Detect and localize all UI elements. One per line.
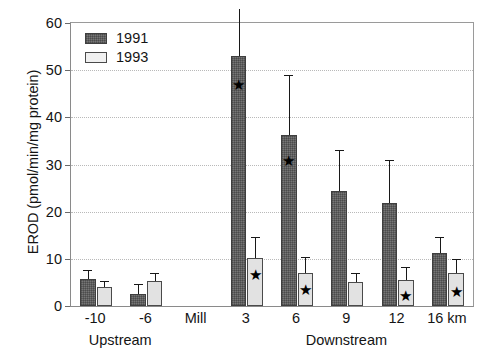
legend-swatch-1991-icon	[85, 33, 107, 44]
error-bar-cap	[335, 150, 344, 151]
y-axis-tick-label: 20	[22, 205, 62, 220]
error-bar-1991-16-km	[440, 237, 441, 253]
y-axis-tick-label: 30	[22, 158, 62, 173]
y-axis-tick	[65, 212, 70, 213]
bar-1993--10	[97, 287, 113, 306]
x-axis-tick-label: 3	[242, 311, 250, 326]
error-bar-1993-9	[356, 273, 357, 282]
gridline	[71, 70, 473, 71]
bar-1993-9	[348, 282, 364, 306]
y-axis-tick	[65, 306, 70, 307]
legend: 1991 1993	[85, 30, 177, 68]
bar-1991-9	[331, 191, 347, 306]
y-axis-tick	[65, 70, 70, 71]
error-bar-cap	[100, 281, 109, 282]
error-bar-1991-3	[239, 9, 240, 56]
significance-star: ★	[232, 77, 245, 92]
y-axis-tick-label: 0	[22, 299, 62, 314]
erod-bar-chart-figure: EROD (pmol/min/mg protein) 0102030405060…	[0, 0, 493, 360]
y-axis-tick-label: 50	[22, 63, 62, 78]
x-axis-group-label: Downstream	[306, 333, 387, 348]
x-axis-tick-label: 12	[389, 311, 405, 326]
legend-swatch-1993-icon	[85, 52, 107, 63]
y-axis-tick-label: 60	[22, 16, 62, 31]
error-bar-1993-6	[305, 257, 306, 273]
error-bar-cap	[284, 75, 293, 76]
error-bar-cap	[385, 160, 394, 161]
y-axis-tick-label: 40	[22, 110, 62, 125]
x-axis-tick-label: 9	[342, 311, 350, 326]
error-bar-1991-6	[289, 75, 290, 135]
error-bar-cap	[301, 257, 310, 258]
error-bar-1993-16-km	[456, 259, 457, 273]
y-axis-tick	[65, 165, 70, 166]
y-axis-tick	[65, 259, 70, 260]
y-axis-tick	[65, 117, 70, 118]
significance-star: ★	[450, 283, 463, 298]
bar-1991--10	[80, 279, 96, 306]
x-axis-group-label: Upstream	[89, 333, 152, 348]
y-axis-tick-label: 10	[22, 252, 62, 267]
bar-1991-12	[382, 203, 398, 306]
bar-1993--6	[147, 281, 163, 306]
error-bar-1991-9	[339, 150, 340, 191]
error-bar-cap	[452, 259, 461, 260]
error-bar-cap	[401, 267, 410, 268]
gridline	[71, 259, 473, 260]
error-bar-cap	[83, 270, 92, 271]
legend-label-1993: 1993	[116, 50, 148, 65]
error-bar-1993--6	[155, 273, 156, 281]
bar-1991-3	[231, 56, 247, 306]
error-bar-1991--10	[88, 270, 89, 279]
error-bar-cap	[251, 237, 260, 238]
x-axis-tick-label: -10	[85, 311, 106, 326]
error-bar-1991--6	[138, 284, 139, 294]
error-bar-1993-12	[406, 267, 407, 280]
error-bar-1991-12	[389, 160, 390, 203]
error-bar-1993-3	[255, 237, 256, 258]
legend-item-1991: 1991	[85, 30, 177, 47]
error-bar-cap	[351, 273, 360, 274]
x-axis-tick-label: 16 km	[427, 311, 467, 326]
legend-label-1991: 1991	[116, 31, 148, 46]
bar-1991--6	[130, 294, 146, 306]
error-bar-cap	[150, 273, 159, 274]
x-axis-tick-label: -6	[139, 311, 152, 326]
significance-star: ★	[299, 282, 312, 297]
x-axis-tick-label: Mill	[185, 311, 207, 326]
y-axis-tick	[65, 23, 70, 24]
x-axis-tick-label: 6	[292, 311, 300, 326]
significance-star: ★	[282, 152, 295, 167]
bar-1991-16-km	[432, 253, 448, 306]
legend-item-1993: 1993	[85, 49, 177, 66]
error-bar-cap	[435, 237, 444, 238]
error-bar-cap	[134, 284, 143, 285]
gridline	[71, 165, 473, 166]
significance-star: ★	[249, 266, 262, 281]
significance-star: ★	[399, 288, 412, 303]
gridline	[71, 212, 473, 213]
gridline	[71, 117, 473, 118]
